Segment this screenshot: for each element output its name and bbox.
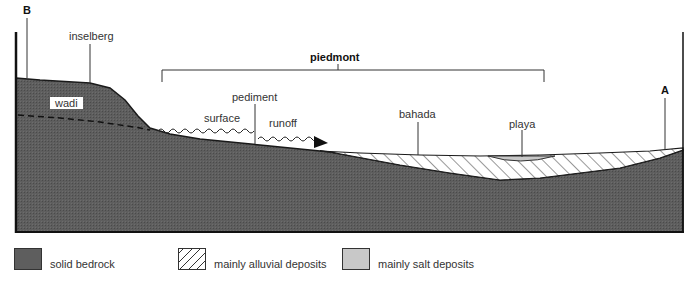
- alluvial-swatch-icon: [178, 248, 206, 270]
- inselberg-label: inselberg: [69, 30, 114, 42]
- playa-label: playa: [509, 118, 535, 130]
- point-b-label: B: [23, 4, 31, 16]
- pediment-label: pediment: [232, 91, 277, 103]
- salt-swatch-icon: [342, 248, 370, 270]
- cross-section-diagram: [0, 0, 694, 286]
- point-a-label: A: [661, 84, 669, 96]
- legend-label: mainly alluvial deposits: [214, 258, 327, 270]
- runoff-arrow-icon: [314, 136, 328, 148]
- piedmont-bracket: [162, 70, 544, 82]
- legend-item-alluvial: mainly alluvial deposits: [178, 248, 327, 270]
- bahada-label: bahada: [399, 108, 436, 120]
- surface-runoff-wave-2: [258, 137, 318, 141]
- legend-item-bedrock: solid bedrock: [14, 248, 115, 270]
- legend-label: mainly salt deposits: [378, 258, 474, 270]
- piedmont-label: piedmont: [310, 51, 360, 63]
- bedrock-swatch-icon: [14, 248, 42, 270]
- surface-runoff-wave-1: [158, 129, 254, 133]
- legend-label: solid bedrock: [50, 258, 115, 270]
- wadi-label: wadi: [50, 97, 83, 109]
- runoff-label: runoff: [269, 117, 297, 129]
- legend-item-salt: mainly salt deposits: [342, 248, 474, 270]
- surface-label: surface: [204, 112, 240, 124]
